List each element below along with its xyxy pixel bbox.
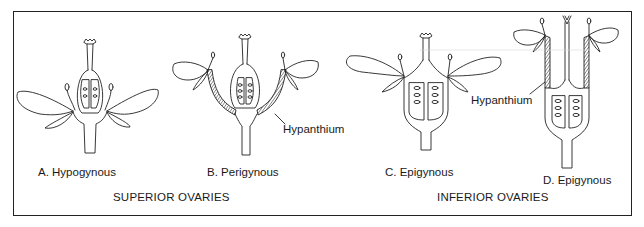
annotation-hypanthium-b: Hypanthium [283,123,344,135]
panel-label-d: D. Epigynous [543,174,611,186]
panel-label-c: C. Epigynous [385,166,453,178]
group-label-inferior: INFERIOR OVARIES [437,191,549,203]
flower-a-hypogynous [17,39,158,153]
flower-d-epigynous [514,16,619,168]
panel-label-a: A. Hypogynous [38,166,116,178]
annotation-hypanthium-d: Hypanthium [471,94,532,106]
group-label-superior: SUPERIOR OVARIES [113,191,230,203]
flower-b-perigynous [173,34,319,155]
flower-c-epigynous [346,33,501,150]
panel-label-b: B. Perigynous [207,166,279,178]
